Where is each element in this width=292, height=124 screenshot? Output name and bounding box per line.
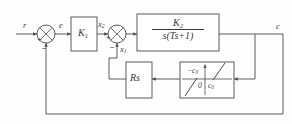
gain-block-symbol: K [78, 27, 85, 38]
x1-subscript: 1 [124, 48, 127, 54]
plant-denominator: s(Ts+1) [152, 31, 204, 42]
gain-block-label: K1 [78, 28, 88, 39]
gain-block-subscript: 1 [85, 32, 88, 39]
c0-subscript: 0 [211, 84, 214, 90]
sum2-minus-sign: − [110, 44, 115, 52]
label-reference-input: r [23, 21, 26, 30]
label-inner-feedback-signal: x1 [120, 45, 127, 55]
nonlinearity-origin-label: 0 [198, 82, 202, 90]
plant-transfer-function-label: K2 s(Ts+1) [152, 18, 204, 41]
sum1-plus-sign: + [37, 36, 42, 44]
label-error-signal: e [59, 21, 63, 30]
label-output-signal: c [276, 22, 280, 31]
sum2-plus-sign: + [106, 34, 111, 42]
diagram-canvas [0, 0, 292, 124]
sum1-minus-sign: − [42, 45, 47, 53]
label-inner-forward-signal: x2 [98, 20, 105, 30]
plant-numerator: K2 [152, 18, 204, 29]
arrow-into-nonlinearity [234, 77, 238, 80]
block-diagram-figure: r + − e K1 x2 + − x1 K2 s(Ts+1) c Rs −c0… [0, 0, 292, 124]
neg-c0-subscript: 0 [195, 69, 198, 75]
arrow-rs-into-sum2 [115, 43, 118, 47]
rate-feedback-block-label: Rs [130, 73, 140, 83]
nonlinearity-lower-label: c0 [208, 82, 214, 90]
arrow-nonlinearity-to-rs [152, 77, 156, 80]
arrow-error-to-gain [67, 32, 71, 35]
nonlinearity-upper-label: −c0 [187, 67, 198, 75]
arrow-sum2-to-plant [133, 32, 137, 35]
x2-subscript: 2 [102, 23, 105, 29]
